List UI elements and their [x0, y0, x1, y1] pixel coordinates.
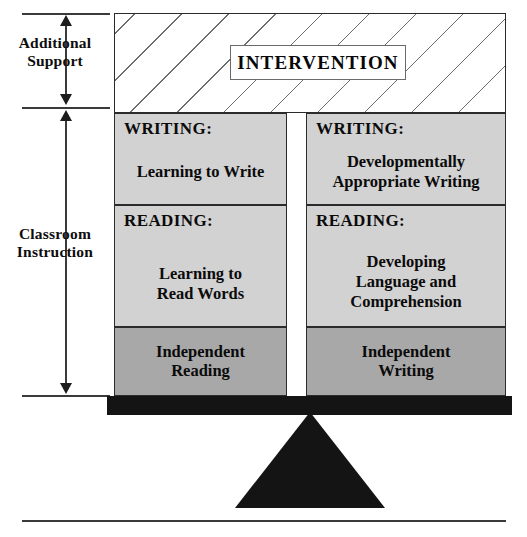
reading-learning-to-read-words-line1: Learning to: [115, 264, 286, 284]
axis-arrowhead-down-support: [60, 94, 72, 105]
reading-developing-language-header: READING:: [316, 211, 405, 231]
independent-writing-block[interactable]: Independent Writing: [306, 327, 506, 396]
writing-learning-to-write-line1: Learning to Write: [115, 162, 286, 182]
writing-developmentally-appropriate-line2: Appropriate Writing: [307, 172, 505, 192]
reading-learning-to-read-words-line2: Read Words: [115, 284, 286, 304]
axis-arrowhead-down-instruction: [60, 383, 72, 394]
writing-learning-to-write-block[interactable]: WRITING: Learning to Write: [114, 113, 287, 205]
axis-label-additional-support: Additional Support: [0, 34, 110, 70]
axis-label-classroom-instruction-line2: Instruction: [0, 243, 110, 261]
fulcrum-triangle: [235, 412, 385, 508]
independent-reading-block[interactable]: Independent Reading: [114, 327, 287, 396]
reading-developing-language-line2: Language and: [307, 272, 505, 292]
axis-label-additional-support-line2: Support: [0, 52, 110, 70]
ground-line: [22, 520, 506, 522]
writing-developmentally-appropriate-block[interactable]: WRITING: Developmentally Appropriate Wri…: [306, 113, 506, 205]
axis-arrowhead-up-support: [60, 15, 72, 26]
reading-learning-to-read-words-body: Learning to Read Words: [115, 264, 286, 304]
independent-writing-body: Independent Writing: [307, 342, 505, 382]
writing-developmentally-appropriate-line1: Developmentally: [307, 152, 505, 172]
writing-learning-to-write-body: Learning to Write: [115, 162, 286, 182]
axis-tick-middle: [22, 107, 110, 109]
independent-writing-line1: Independent: [307, 342, 505, 362]
diagram-canvas: Additional Support Classroom Instruction…: [0, 0, 527, 537]
reading-developing-language-line3: Comprehension: [307, 292, 505, 312]
writing-developmentally-appropriate-header: WRITING:: [316, 119, 404, 139]
independent-reading-body: Independent Reading: [115, 342, 286, 382]
writing-learning-to-write-header: WRITING:: [124, 119, 212, 139]
axis-arrowhead-up-instruction: [60, 110, 72, 121]
axis-label-classroom-instruction-line1: Classroom: [0, 225, 110, 243]
intervention-label: INTERVENTION: [237, 52, 398, 74]
writing-developmentally-appropriate-body: Developmentally Appropriate Writing: [307, 152, 505, 192]
independent-writing-line2: Writing: [307, 362, 505, 382]
reading-developing-language-block[interactable]: READING: Developing Language and Compreh…: [306, 205, 506, 327]
intervention-label-box: INTERVENTION: [230, 45, 406, 80]
axis-tick-bottom: [22, 395, 110, 397]
axis-label-additional-support-line1: Additional: [0, 34, 110, 52]
independent-reading-line2: Reading: [115, 362, 286, 382]
reading-developing-language-body: Developing Language and Comprehension: [307, 252, 505, 311]
independent-reading-line1: Independent: [115, 342, 286, 362]
reading-learning-to-read-words-header: READING:: [124, 211, 213, 231]
reading-developing-language-line1: Developing: [307, 252, 505, 272]
axis-label-classroom-instruction: Classroom Instruction: [0, 225, 110, 261]
reading-learning-to-read-words-block[interactable]: READING: Learning to Read Words: [114, 205, 287, 327]
